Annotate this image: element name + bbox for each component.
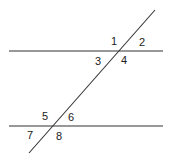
angle-label-3: 3 [95, 55, 101, 67]
angle-label-6: 6 [68, 111, 74, 123]
transversal-line [29, 10, 155, 153]
angle-label-8: 8 [56, 130, 62, 142]
angle-label-1: 1 [111, 35, 117, 47]
angle-label-5: 5 [42, 110, 48, 122]
angle-label-2: 2 [139, 36, 145, 48]
angle-label-4: 4 [121, 54, 127, 66]
diagram-canvas: 1 2 3 4 5 6 7 8 [0, 0, 170, 159]
angle-label-7: 7 [27, 129, 33, 141]
